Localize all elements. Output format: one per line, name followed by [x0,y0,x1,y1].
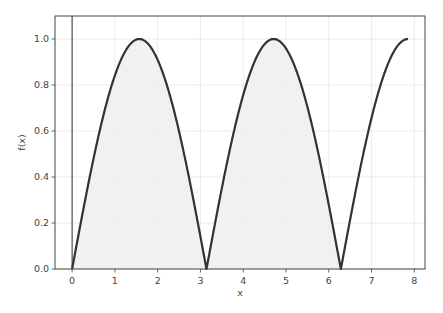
line-chart: 012345678 0.00.20.40.60.81.0 x f(x) [0,0,443,313]
x-tick-label: 1 [112,275,118,286]
y-tick-label: 0.6 [34,125,49,136]
y-axis-ticks: 0.00.20.40.60.81.0 [34,33,55,274]
x-tick-label: 4 [240,275,246,286]
x-tick-label: 2 [155,275,161,286]
x-tick-label: 3 [197,275,203,286]
y-tick-label: 0.8 [34,79,49,90]
x-tick-label: 8 [411,275,417,286]
x-tick-label: 6 [326,275,332,286]
fill-area [72,39,341,269]
y-tick-label: 0.4 [34,171,49,182]
y-axis-label: f(x) [16,134,27,150]
y-tick-label: 0.2 [34,217,49,228]
x-axis-label: x [237,287,243,298]
x-axis-ticks: 012345678 [69,269,417,286]
x-tick-label: 0 [69,275,75,286]
y-tick-label: 1.0 [34,33,49,44]
x-tick-label: 7 [369,275,375,286]
x-tick-label: 5 [283,275,289,286]
y-tick-label: 0.0 [34,263,49,274]
